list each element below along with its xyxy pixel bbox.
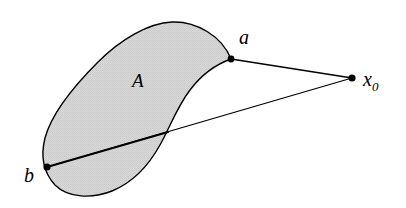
point-label-x0: x0 <box>362 68 379 94</box>
point-x0-dot <box>348 74 355 81</box>
point-a-dot <box>228 56 235 63</box>
segment-a-to-x0 <box>231 59 352 78</box>
figure-canvas: A a b x0 <box>0 0 406 208</box>
point-label-b: b <box>24 164 34 186</box>
point-label-x0-subscript: 0 <box>372 79 379 94</box>
point-label-a: a <box>239 26 249 48</box>
region-a-shape <box>43 22 231 196</box>
point-label-x0-base: x <box>362 68 372 90</box>
region-label-A: A <box>130 70 144 91</box>
point-b-dot <box>43 163 50 170</box>
set-diagram: A a b x0 <box>0 0 406 208</box>
